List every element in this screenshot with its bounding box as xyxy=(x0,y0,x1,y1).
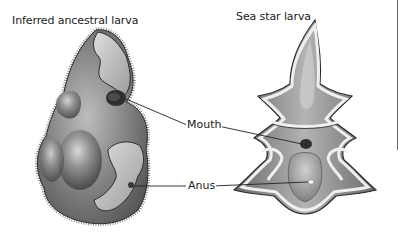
sea-star-larva-illustration xyxy=(234,20,376,214)
ancestral-larva-title: Inferred ancestral larva xyxy=(12,14,138,27)
larva-comparison-figure: Inferred ancestral larva Sea star larva … xyxy=(0,0,406,236)
mouth-label: Mouth xyxy=(186,119,222,131)
figure-divider-rule xyxy=(397,0,398,150)
ancestral-larva-illustration xyxy=(37,30,148,224)
anus-label: Anus xyxy=(187,180,216,192)
sea-star-larva-title: Sea star larva xyxy=(236,10,311,23)
